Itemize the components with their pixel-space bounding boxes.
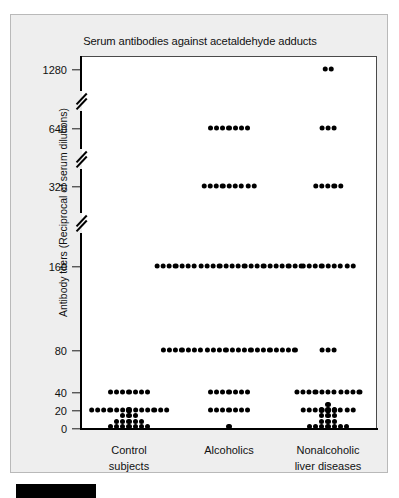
y-tick-mark-80: [72, 350, 80, 351]
data-point: [300, 408, 305, 413]
data-point: [319, 407, 324, 412]
data-point: [332, 184, 337, 189]
data-point: [274, 348, 279, 353]
data-point: [145, 390, 150, 395]
data-point: [239, 126, 244, 131]
dot-row-160: [300, 264, 357, 271]
data-point: [214, 126, 219, 131]
data-point: [332, 390, 337, 395]
data-point: [319, 348, 324, 353]
data-point: [242, 264, 247, 269]
axis-break-mark-1: [74, 93, 88, 109]
data-point: [261, 264, 266, 269]
data-point: [245, 408, 250, 413]
data-point: [186, 348, 191, 353]
y-tick-mark-0: [72, 428, 80, 429]
data-point: [292, 348, 297, 353]
dot-row-1280: [322, 67, 335, 74]
data-point: [226, 408, 231, 413]
data-point: [357, 390, 362, 395]
dot-row-40: [207, 390, 251, 397]
dot-row-320: [312, 184, 343, 191]
data-point: [126, 424, 131, 429]
dot-row-20: [207, 408, 251, 415]
data-point: [313, 408, 318, 413]
data-point: [325, 419, 330, 424]
y-tick-mark-20: [72, 410, 80, 411]
data-point: [351, 390, 356, 395]
data-point: [126, 413, 131, 418]
data-point: [198, 264, 203, 269]
data-point: [145, 408, 150, 413]
data-point: [220, 408, 225, 413]
data-point: [248, 348, 253, 353]
data-point: [319, 390, 324, 395]
y-tick-label-40: 40: [19, 387, 67, 399]
data-point: [319, 184, 324, 189]
data-point: [220, 126, 225, 131]
data-point: [338, 390, 343, 395]
data-point: [126, 407, 131, 412]
data-point: [192, 264, 197, 269]
data-point: [338, 184, 343, 189]
data-point: [313, 184, 318, 189]
data-point: [319, 264, 324, 269]
data-point: [226, 390, 231, 395]
data-point: [233, 408, 238, 413]
data-point: [332, 264, 337, 269]
data-point: [226, 424, 231, 429]
data-point: [307, 264, 312, 269]
y-tick-label-0: 0: [19, 423, 67, 435]
plot-area: [81, 56, 377, 430]
data-point: [133, 419, 138, 424]
data-point: [101, 408, 106, 413]
data-point: [325, 424, 330, 429]
data-point: [300, 390, 305, 395]
data-point: [230, 348, 235, 353]
y-tick-label-320: 320: [19, 181, 67, 193]
data-point: [267, 264, 272, 269]
x-axis-group-label-line2: liver diseases: [268, 458, 388, 474]
data-point: [126, 419, 131, 424]
data-point: [325, 402, 330, 407]
data-point: [261, 348, 266, 353]
y-tick-label-20: 20: [19, 405, 67, 417]
data-point: [126, 390, 131, 395]
data-point: [214, 408, 219, 413]
dot-row-80: [319, 348, 338, 355]
data-point: [319, 419, 324, 424]
data-point: [252, 184, 257, 189]
data-point: [114, 419, 119, 424]
data-point: [294, 390, 299, 395]
x-axis-group-label-line2: subjects: [69, 458, 189, 474]
data-point: [338, 264, 343, 269]
data-point: [274, 264, 279, 269]
y-tick-mark-320: [72, 186, 80, 187]
data-point: [220, 390, 225, 395]
data-point: [139, 419, 144, 424]
y-axis-spine: [80, 56, 82, 430]
data-point: [208, 408, 213, 413]
data-point: [351, 408, 356, 413]
data-point: [332, 413, 337, 418]
data-point: [152, 408, 157, 413]
data-point: [217, 264, 222, 269]
dot-row-640: [319, 126, 338, 133]
data-point: [267, 348, 272, 353]
data-point: [179, 264, 184, 269]
data-point: [255, 348, 260, 353]
data-point: [108, 408, 113, 413]
data-point: [307, 390, 312, 395]
data-point: [204, 264, 209, 269]
data-point: [313, 264, 318, 269]
data-point: [89, 408, 94, 413]
data-point: [208, 126, 213, 131]
data-point: [223, 264, 228, 269]
data-point: [239, 408, 244, 413]
y-tick-mark-640: [72, 128, 80, 129]
data-point: [325, 390, 330, 395]
data-point: [280, 348, 285, 353]
data-point: [230, 264, 235, 269]
data-point: [242, 348, 247, 353]
data-point: [338, 408, 343, 413]
